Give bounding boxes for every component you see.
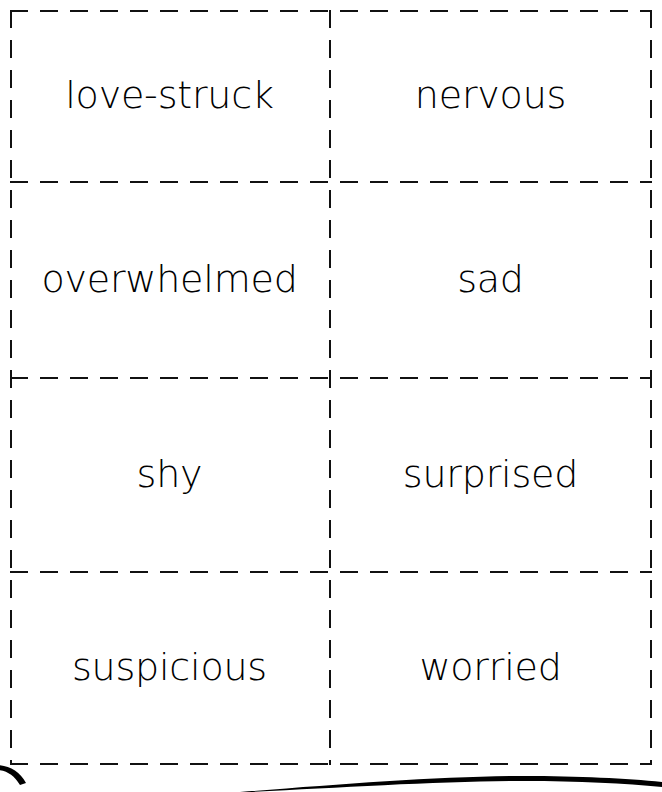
flashcard-worried[interactable]: worried [331, 573, 650, 763]
flashcard-label: suspicious [72, 647, 267, 689]
flashcard-label: overwhelmed [41, 259, 297, 301]
flashcard-suspicious[interactable]: suspicious [10, 573, 329, 763]
flashcard-shy[interactable]: shy [10, 379, 329, 571]
flashcard-label: love-struck [65, 75, 274, 117]
flashcard-nervous[interactable]: nervous [331, 10, 650, 181]
left-hook-ink-mark [0, 765, 26, 785]
flashcard-label: sad [457, 259, 524, 301]
flashcard-label: nervous [415, 75, 566, 117]
flashcard-sad[interactable]: sad [331, 183, 650, 377]
grid-line-right [650, 10, 652, 765]
flashcard-label: shy [137, 454, 203, 496]
flashcard-surprised[interactable]: surprised [331, 379, 650, 571]
flashcard-love-struck[interactable]: love-struck [10, 10, 329, 181]
flashcard-page: love-struck nervous overwhelmed sad shy … [0, 0, 662, 792]
flashcard-cut-grid: love-struck nervous overwhelmed sad shy … [10, 10, 652, 765]
flashcard-label: worried [419, 647, 561, 689]
grid-line-bottom [10, 763, 652, 765]
bottom-curve-ink-mark [240, 776, 662, 792]
flashcard-label: surprised [403, 454, 578, 496]
flashcard-overwhelmed[interactable]: overwhelmed [10, 183, 329, 377]
